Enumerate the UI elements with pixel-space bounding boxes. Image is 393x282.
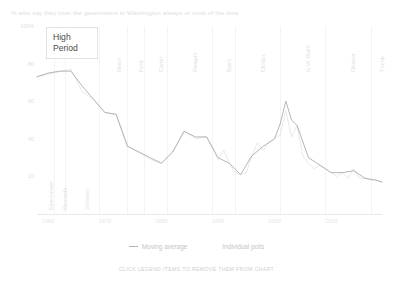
y-axis-tick: 100%	[10, 23, 34, 29]
legend-label-individual-polls: Individual polls	[222, 243, 264, 250]
individual-polls-line	[37, 69, 382, 182]
y-axis-tick: 40	[10, 136, 34, 142]
chart-page: % who say they trust the government in W…	[0, 0, 393, 282]
x-axis-tick: 1990	[212, 218, 224, 224]
tooltip-line-1: High Period	[53, 32, 91, 53]
x-axis-tick: 1960	[42, 218, 54, 224]
x-axis-line	[37, 214, 382, 215]
x-axis-tick: 2000	[268, 218, 280, 224]
y-axis-tick: 60	[10, 98, 34, 104]
dot-swatch-icon	[213, 246, 218, 247]
chart-legend: Moving average Individual polls	[0, 243, 393, 250]
x-axis-tick: 2010	[325, 218, 337, 224]
moving-average-line	[37, 71, 382, 182]
x-axis-tick: 1980	[155, 218, 167, 224]
legend-item-moving-average[interactable]: Moving average	[129, 243, 187, 250]
y-axis-tick: 80	[10, 61, 34, 67]
legend-hint-caption: CLICK LEGEND ITEMS TO REMOVE THEM FROM C…	[0, 266, 393, 272]
x-axis-tick: 1970	[99, 218, 111, 224]
y-axis-tick: 20	[10, 173, 34, 179]
chart-title: % who say they trust the government in W…	[11, 9, 239, 16]
legend-item-individual-polls[interactable]: Individual polls	[213, 243, 264, 250]
legend-label-moving-average: Moving average	[142, 243, 187, 250]
line-swatch-icon	[129, 246, 138, 247]
tooltip-high-period: High Period	[46, 27, 98, 59]
